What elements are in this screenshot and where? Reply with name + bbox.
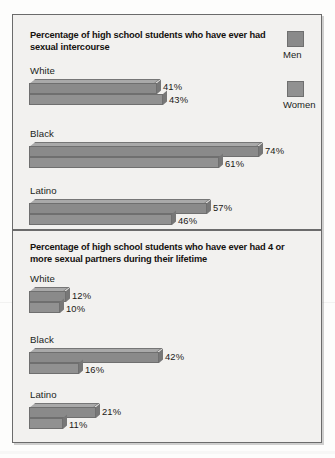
bar-women-black-2 bbox=[29, 363, 79, 374]
group-label-latino-2: Latino bbox=[30, 389, 57, 400]
bar-men-white-1-cap bbox=[157, 79, 161, 94]
bar-value-men-white-2: 12% bbox=[72, 290, 91, 301]
bar-value-men-black-2: 42% bbox=[165, 351, 184, 362]
figure-container: Percentage of high school students who h… bbox=[0, 0, 335, 458]
bar-women-white-1 bbox=[29, 94, 163, 105]
legend-swatch-men bbox=[287, 31, 304, 47]
bar-group-latino-2: 21% 11% bbox=[29, 403, 309, 435]
legend-item-men: Men bbox=[283, 31, 327, 60]
chart-frame: Percentage of high school students who h… bbox=[12, 14, 322, 443]
bar-men-black-1 bbox=[29, 146, 259, 157]
bar-women-white-2 bbox=[29, 302, 60, 313]
chart-panel-intercourse: Percentage of high school students who h… bbox=[13, 15, 321, 229]
group-label-black-2: Black bbox=[30, 334, 54, 345]
legend-label-men: Men bbox=[283, 49, 327, 60]
chart-title-2: Percentage of high school students who h… bbox=[30, 241, 298, 265]
bar-group-white-1: 41% 43% bbox=[29, 79, 309, 111]
scan-artifact-line bbox=[0, 451, 335, 454]
bar-women-white-2-cap bbox=[60, 298, 64, 313]
bar-value-women-latino-1: 46% bbox=[178, 215, 197, 226]
bar-women-black-1-cap bbox=[219, 153, 223, 168]
bar-men-latino-1 bbox=[29, 203, 207, 214]
bar-men-black-2-cap bbox=[159, 348, 163, 363]
bar-group-black-2: 42% 16% bbox=[29, 348, 309, 380]
bar-group-black-1: 74% 61% bbox=[29, 142, 319, 174]
bar-men-black-1-cap bbox=[259, 142, 263, 157]
bar-women-black-2-cap bbox=[79, 359, 83, 374]
bar-value-women-white-1: 43% bbox=[169, 94, 188, 105]
bar-men-white-1 bbox=[29, 83, 157, 94]
bar-men-white-2-cap bbox=[66, 287, 70, 302]
bar-women-latino-2 bbox=[29, 418, 63, 429]
bar-men-latino-2 bbox=[29, 407, 96, 418]
chart-panel-partners: Percentage of high school students who h… bbox=[13, 230, 321, 442]
bar-value-women-latino-2: 11% bbox=[69, 419, 87, 430]
bar-men-black-2 bbox=[29, 352, 159, 363]
bar-value-women-white-2: 10% bbox=[66, 303, 85, 314]
bar-men-latino-2-cap bbox=[96, 403, 100, 418]
bar-group-latino-1: 57% 46% bbox=[29, 199, 319, 231]
bar-women-latino-1 bbox=[29, 214, 172, 225]
group-label-latino-1: Latino bbox=[30, 185, 57, 196]
bar-women-white-1-cap bbox=[163, 90, 167, 105]
group-label-black-1: Black bbox=[30, 128, 54, 139]
bar-value-women-black-1: 61% bbox=[225, 158, 244, 169]
bar-value-men-latino-1: 57% bbox=[213, 202, 232, 213]
bar-women-latino-2-cap bbox=[63, 414, 67, 429]
bar-value-men-latino-2: 21% bbox=[102, 406, 121, 417]
group-label-white-1: White bbox=[30, 65, 55, 76]
bar-men-latino-1-cap bbox=[207, 199, 211, 214]
group-label-white-2: White bbox=[30, 273, 55, 284]
bar-women-latino-1-cap bbox=[172, 210, 176, 225]
bar-value-men-black-1: 74% bbox=[265, 145, 284, 156]
bar-value-women-black-2: 16% bbox=[85, 364, 104, 375]
bar-women-black-1 bbox=[29, 157, 219, 168]
bar-group-white-2: 12% 10% bbox=[29, 287, 309, 319]
chart-title-1: Percentage of high school students who h… bbox=[30, 29, 270, 53]
